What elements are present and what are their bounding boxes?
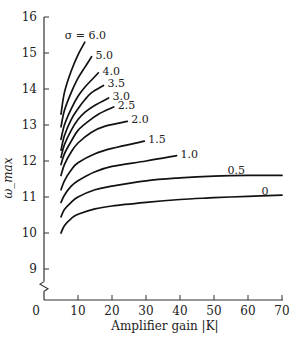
y-axis-label: ω_max xyxy=(1,157,15,198)
curve-label: σ = 6.0 xyxy=(65,29,106,42)
curve-label: 0 xyxy=(262,185,269,198)
curve-label: 0.5 xyxy=(228,164,246,177)
x-tick-label: 40 xyxy=(172,304,187,318)
x-tick-label: 0 xyxy=(32,304,40,318)
axis-break-icon xyxy=(40,282,48,292)
plot-area: 910111213141516010203040506070 σ = 6.05.… xyxy=(0,0,297,344)
y-tick-label: 10 xyxy=(22,226,37,240)
x-tick-label: 20 xyxy=(104,304,119,318)
y-tick-label: 9 xyxy=(29,262,37,276)
curve-label: 2.0 xyxy=(131,113,149,126)
x-tick-label: 70 xyxy=(274,304,289,318)
curve-line xyxy=(61,195,282,233)
y-tick-label: 15 xyxy=(22,46,37,60)
x-tick-label: 30 xyxy=(138,304,153,318)
curve-label: 4.0 xyxy=(102,65,120,78)
x-tick-label: 50 xyxy=(206,304,221,318)
x-axis-label: Amplifier gain |K| xyxy=(110,319,218,333)
x-tick-label: 10 xyxy=(70,304,85,318)
y-tick-label: 13 xyxy=(22,118,37,132)
curves xyxy=(61,42,282,233)
chart: 910111213141516010203040506070 σ = 6.05.… xyxy=(0,0,297,344)
y-tick-label: 14 xyxy=(22,82,38,96)
curve-label: 2.5 xyxy=(118,99,136,112)
curve-label: 3.5 xyxy=(108,77,126,90)
curve-label: 1.0 xyxy=(181,148,199,161)
y-tick-label: 12 xyxy=(22,154,37,168)
y-tick-label: 11 xyxy=(22,190,37,204)
x-tick-label: 60 xyxy=(240,304,255,318)
curve-line xyxy=(61,57,92,127)
curve-label: 1.5 xyxy=(148,133,166,146)
y-tick-label: 16 xyxy=(22,10,37,24)
curve-label: 5.0 xyxy=(96,49,114,62)
